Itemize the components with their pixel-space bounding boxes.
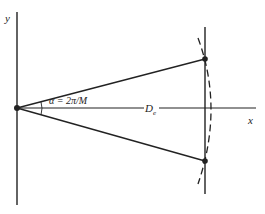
x-axis-label: x — [247, 114, 253, 126]
origin — [14, 105, 20, 111]
upper-ray — [17, 59, 205, 108]
upper-point — [202, 56, 208, 62]
distance-label: D — [144, 102, 153, 114]
y-axis-label: y — [4, 12, 10, 24]
angle-label: α = 2π/M — [49, 95, 88, 106]
diagram-canvas: y x α = 2π/M D e — [0, 0, 265, 214]
distance-label-subscript: e — [153, 109, 156, 117]
lower-point — [202, 158, 208, 164]
lower-ray — [17, 108, 205, 161]
